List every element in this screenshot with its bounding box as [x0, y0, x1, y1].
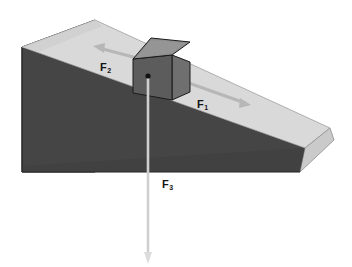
inclined-plane-scene: [0, 0, 352, 267]
force-label-f1: F1: [197, 99, 208, 110]
force-label-f3: F3: [162, 179, 173, 190]
force-label-f2: F2: [100, 62, 111, 73]
block-center-dot: [145, 73, 150, 78]
block-right-face: [172, 55, 190, 100]
block-front-face: [133, 55, 172, 100]
diagram-canvas: F1 F2 F3: [0, 0, 352, 267]
